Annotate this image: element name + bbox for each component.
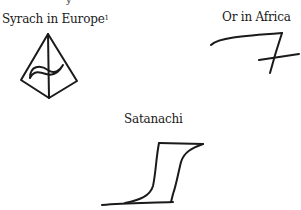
hooked-step-icon: [0, 0, 301, 210]
